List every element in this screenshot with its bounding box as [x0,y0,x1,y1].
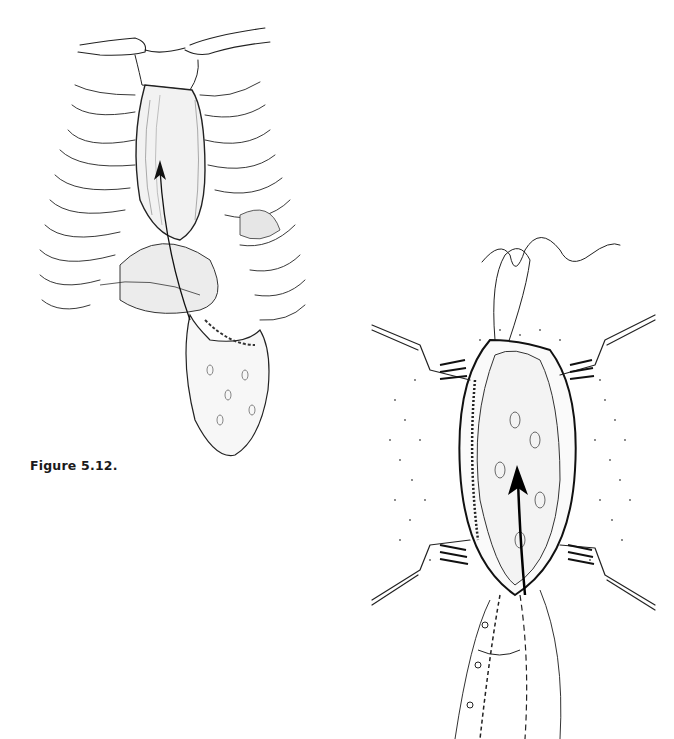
retrosternal-organ [136,85,205,240]
figure-panel-a-chest-illustration [0,0,320,460]
chest-illustration-graphic [0,0,320,460]
clavicles [78,28,270,55]
stomach-pouch [186,315,269,456]
lower-vessel [455,590,561,739]
operative-field-graphic [360,220,674,739]
figure-panel-b-operative-field [360,220,674,739]
figure-caption: Figure 5.12. [30,458,118,473]
